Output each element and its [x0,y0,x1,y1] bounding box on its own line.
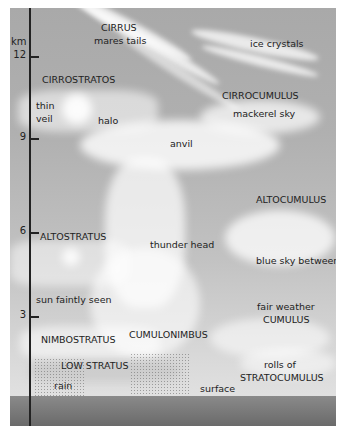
axis-tick-label-9: 9 [12,131,26,142]
axis-tick-label-6: 6 [12,225,26,236]
label-blue-sky-between: blue sky between [256,255,336,266]
faint-sun [62,248,80,266]
ground-surface [10,396,336,426]
label-rain: rain [54,380,72,391]
axis-unit-label: km [11,36,27,47]
label-sun-faintly-seen: sun faintly seen [36,294,112,305]
axis-tick-label-3: 3 [12,309,26,320]
axis-tick-3 [29,316,39,318]
label-cumulus: CUMULUS [263,314,310,325]
label-anvil: anvil [170,138,193,149]
label-altostratus: ALTOSTRATUS [40,231,106,242]
sun-halo [62,94,92,124]
label-low-stratus: LOW STRATUS [61,360,128,371]
label-cirrostratus: CIRROSTRATOS [42,74,115,85]
label-altocumulus: ALTOCUMULUS [256,194,326,205]
label-veil: veil [36,113,53,124]
altitude-axis [29,8,31,426]
label-cirrus: CIRRUS [101,22,137,33]
label-fair-weather: fair weather [257,301,315,312]
label-surface: surface [200,383,235,394]
label-cirrocumulus: CIRROCUMULUS [222,90,299,101]
label-rolls-of: rolls of [264,359,296,370]
label-thunder-head: thunder head [150,239,214,250]
axis-tick-12 [29,56,39,58]
label-mares-tails: mares tails [94,35,146,46]
rain-shading [130,353,190,401]
label-thin: thin [36,100,54,111]
axis-tick-6 [29,232,39,234]
label-halo: halo [98,115,118,126]
label-stratocumulus: STRATOCUMULUS [240,372,324,383]
axis-tick-9 [29,138,39,140]
label-ice-crystals: ice crystals [250,38,304,49]
label-cumulonimbus: CUMULONIMBUS [129,329,208,340]
cloud-diagram: km 12 9 6 3 CIRRUS mares tails ice cryst… [10,8,336,426]
label-nimbostratus: NIMBOSTRATUS [41,334,116,345]
axis-tick-label-12: 12 [12,49,26,60]
label-mackerel-sky: mackerel sky [233,108,295,119]
